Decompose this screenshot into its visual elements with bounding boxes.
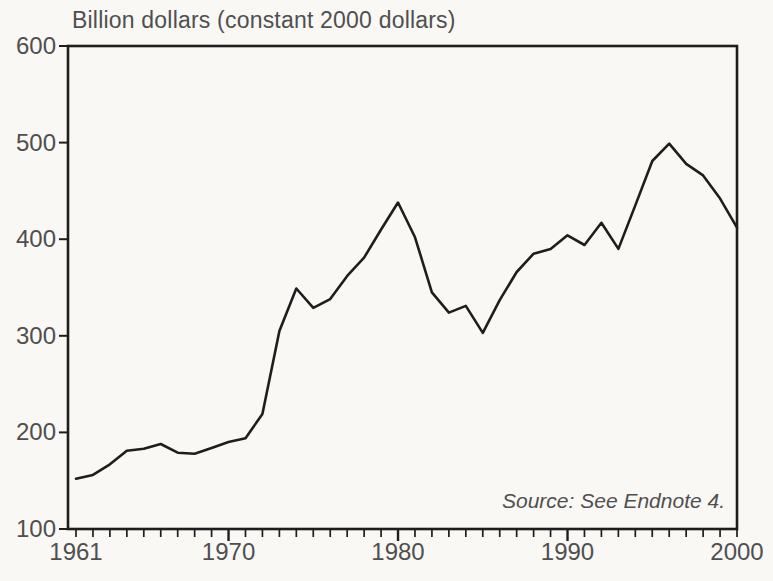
x-axis-label-2000: 2000 xyxy=(710,538,763,566)
y-axis-label-400: 400 xyxy=(16,226,56,252)
y-axis-label-300: 300 xyxy=(16,323,56,349)
y-axis-label-600: 600 xyxy=(16,33,56,59)
x-axis-label-1970: 1970 xyxy=(202,538,255,566)
plot-border xyxy=(68,46,737,529)
data-line xyxy=(76,144,737,479)
x-axis-label-1990: 1990 xyxy=(541,538,594,566)
x-axis-label-1961: 1961 xyxy=(49,538,102,566)
source-note: Source: See Endnote 4. xyxy=(502,489,725,513)
y-axis-label-200: 200 xyxy=(16,419,56,445)
y-axis-label-500: 500 xyxy=(16,130,56,156)
x-axis-label-1980: 1980 xyxy=(371,538,424,566)
chart-page: Billion dollars (constant 2000 dollars) … xyxy=(0,0,773,581)
